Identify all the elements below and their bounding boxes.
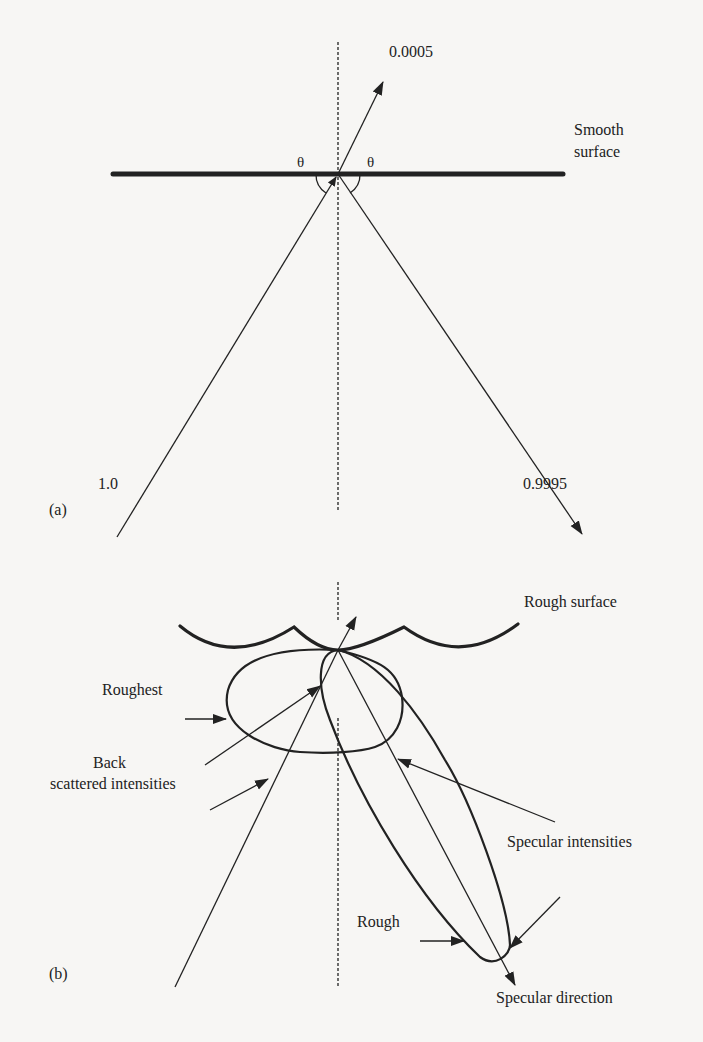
- angle-theta-right: θ: [367, 153, 374, 172]
- panel-a: [113, 42, 582, 537]
- bleed-through-text: [375, 62, 379, 79]
- smooth-surface-label-line1: Smooth: [574, 120, 624, 139]
- panel-a-tag: (a): [49, 500, 67, 519]
- rough-lobe: [321, 650, 510, 961]
- incident-ray-a: [117, 177, 336, 537]
- specular-intensities-pointer: [398, 759, 555, 822]
- roughest-lobe: [227, 649, 403, 752]
- angle-theta-left: θ: [297, 153, 304, 172]
- angle-arc-right: [350, 174, 360, 193]
- incident-intensity-label: 1.0: [98, 474, 118, 493]
- specular-direction-label: Specular direction: [496, 988, 613, 1007]
- specular-intensities-label: Specular intensities: [507, 832, 632, 851]
- back-scatter-pointer-2: [210, 779, 268, 810]
- small-ray-a: [338, 82, 383, 174]
- backscatter-ray-b: [338, 617, 356, 650]
- figure-canvas: 0.0005 Smooth surface θ θ 1.0 0.9995 (a)…: [0, 0, 703, 1042]
- transmitted-intensity-label: 0.0005: [389, 42, 433, 61]
- smooth-surface-label-line2: surface: [574, 142, 620, 161]
- rough-label: Rough: [357, 912, 400, 931]
- rough-surface-label: Rough surface: [524, 592, 617, 611]
- rough-pointer-right: [510, 897, 560, 948]
- angle-arc-left: [316, 174, 326, 193]
- rough-surface: [180, 624, 518, 650]
- panel-b-tag: (b): [49, 964, 68, 983]
- reflected-intensity-label: 0.9995: [523, 474, 567, 493]
- back-scattered-label-line1: Back: [93, 753, 126, 772]
- incident-ray-b: [175, 650, 338, 987]
- back-scattered-label-line2: scattered intensities: [50, 774, 176, 793]
- specular-ray-b: [338, 650, 515, 985]
- roughest-label: Roughest: [102, 680, 162, 699]
